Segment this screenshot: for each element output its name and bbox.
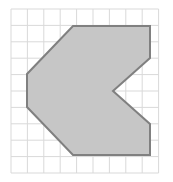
figure-svg [0,0,173,182]
figure-canvas [0,0,173,182]
